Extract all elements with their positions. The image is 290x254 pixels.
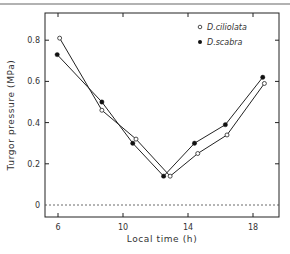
x-tick-label: 14 [183,223,193,232]
data-point [55,52,59,56]
series-line [60,38,265,176]
data-point [100,100,104,104]
legend: D.ciliolata D.scabra [198,23,247,47]
y-tick-label: 0.4 [27,119,40,128]
x-tick-label: 6 [55,223,60,232]
turgor-pressure-chart: 6101418 00.20.40.60.8 D.ciliolata D.scab… [0,0,290,254]
legend-label-scabra: D.scabra [207,38,243,47]
data-point [223,122,227,126]
data-series [55,36,266,178]
data-point [161,174,165,178]
data-point [134,137,138,141]
filled-circle-marker-icon [198,40,202,44]
open-circle-marker-icon [198,25,202,29]
y-tick-label: 0.8 [27,36,40,45]
data-point [168,174,172,178]
x-axis-label: Local time (h) [127,234,198,244]
data-point [192,141,196,145]
data-point [100,108,104,112]
y-tick-label: 0.6 [27,77,40,86]
data-point [262,81,266,85]
y-axis-label: Turgor pressure (MPa) [6,60,16,172]
data-point [58,36,62,40]
y-tick-label: 0.2 [27,160,40,169]
data-point [261,75,265,79]
data-point [131,141,135,145]
x-tick-label: 10 [118,223,128,232]
data-point [196,152,200,156]
series-line [57,55,263,177]
data-point [225,133,229,137]
x-tick-label: 18 [248,223,258,232]
plot-frame [45,13,279,217]
legend-label-ciliolata: D.ciliolata [207,23,247,32]
y-tick-label: 0 [35,201,40,210]
